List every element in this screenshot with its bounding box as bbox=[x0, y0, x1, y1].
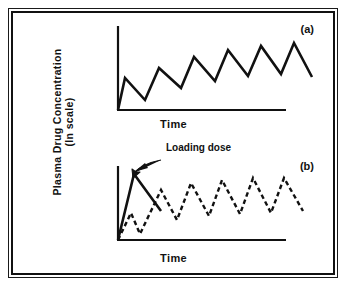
panel-b: Loading dose (b) Time bbox=[104, 148, 320, 258]
panel-b-maintenance-curve bbox=[118, 178, 303, 240]
loading-dose-annotation-label: Loading dose bbox=[166, 142, 231, 153]
panel-a-x-axis-title: Time bbox=[160, 118, 187, 130]
panel-a-curve bbox=[118, 43, 312, 110]
panel-b-letter: (b) bbox=[300, 160, 314, 172]
panel-a: (a) Time bbox=[104, 22, 320, 126]
loading-dose-arrow-icon bbox=[132, 160, 161, 178]
panel-a-letter: (a) bbox=[301, 23, 314, 35]
panel-a-plot bbox=[104, 22, 320, 126]
panel-b-plot bbox=[104, 148, 320, 258]
figure-root: Plasma Drug Concentration (ln scale) (a)… bbox=[0, 0, 346, 286]
panel-b-x-axis-title: Time bbox=[160, 252, 187, 264]
